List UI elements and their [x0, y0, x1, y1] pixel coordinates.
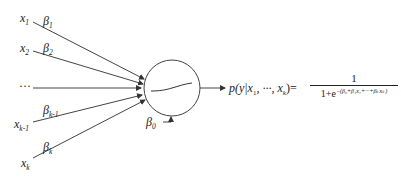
- bias-label-beta0: β0: [146, 116, 156, 131]
- fraction-numerator: 1: [310, 72, 398, 84]
- weight-label-beta-k-1: βk-1: [43, 104, 59, 119]
- output-probability-lhs: p(y|x1, ···, xk)=: [229, 81, 297, 97]
- input-label-x1: x1: [20, 12, 29, 27]
- input-label-x-k-1: xk-1: [14, 118, 29, 133]
- weight-label-beta2: β2: [43, 42, 53, 57]
- weight-label-beta1: β1: [43, 15, 53, 30]
- bias-line: [163, 117, 171, 122]
- input-label-xk: xk: [21, 157, 30, 172]
- input-label-x2: x2: [20, 42, 29, 57]
- fraction-bar: [310, 85, 398, 86]
- weight-label-beta-k: βk: [43, 141, 52, 156]
- sigmoid-fraction: 1 1+e−(β₀+β₁x₁+···+βₖxₖ): [310, 72, 398, 99]
- fraction-denominator: 1+e−(β₀+β₁x₁+···+βₖxₖ): [310, 87, 398, 99]
- input-ellipsis: ···: [19, 79, 31, 94]
